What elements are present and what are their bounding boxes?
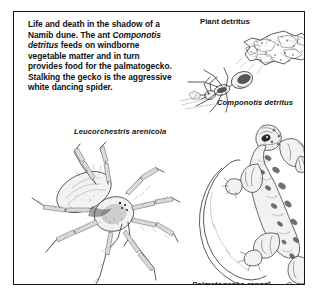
caption-paragraph: Life and death in the shadow of a Namib … (28, 19, 176, 93)
gecko-illustration (166, 116, 304, 284)
figure-frame-inner: Life and death in the shadow of a Namib … (14, 12, 304, 284)
label-componotis-detritus: Componotis detritus (217, 98, 293, 107)
figure-frame: Life and death in the shadow of a Namib … (13, 11, 305, 285)
plant-detritus-illustration (232, 28, 304, 82)
gecko-body (199, 125, 304, 284)
figure-root: Life and death in the shadow of a Namib … (0, 0, 320, 299)
spider-body (32, 142, 180, 284)
label-leucorchestris-arenicola: Leucorchestris arenicola (74, 127, 166, 136)
label-plant-detritus: Plant detritus (200, 17, 250, 26)
spider-illustration (22, 140, 182, 284)
label-palmatogecko-rangei: Palmatogecko rangei (192, 280, 270, 284)
detritus-mass (236, 31, 304, 73)
